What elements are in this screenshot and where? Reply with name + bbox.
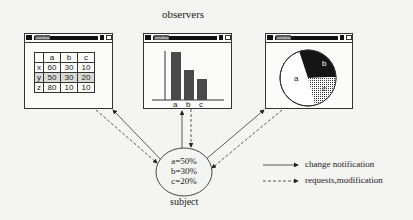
connection-arrows [0, 0, 413, 220]
subject-label: subject [170, 196, 198, 207]
legend-change-notification: change notification [305, 159, 374, 169]
subject-values: a=50% b=30% c=20% [164, 156, 204, 186]
legend-requests-modification: requests,modification [305, 175, 383, 185]
